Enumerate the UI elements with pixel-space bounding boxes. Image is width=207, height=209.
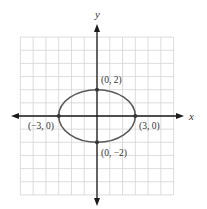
arrow-up-icon	[94, 24, 100, 32]
arrow-left-icon	[11, 113, 19, 119]
label-top: (0, 2)	[101, 75, 122, 86]
label-left: (−3, 0)	[28, 121, 54, 132]
coordinate-plane: x y (0, 2) (−3, 0) (3, 0) (0, −2)	[0, 0, 207, 209]
label-bottom: (0, −2)	[101, 148, 127, 159]
y-axis	[94, 24, 100, 206]
label-right: (3, 0)	[139, 121, 160, 132]
point-left	[57, 114, 61, 118]
point-bottom	[95, 140, 99, 144]
x-axis-label: x	[188, 110, 194, 122]
arrow-down-icon	[94, 198, 100, 206]
point-top	[95, 88, 99, 92]
point-right	[133, 114, 137, 118]
arrow-right-icon	[176, 113, 184, 119]
y-axis-label: y	[94, 8, 100, 20]
